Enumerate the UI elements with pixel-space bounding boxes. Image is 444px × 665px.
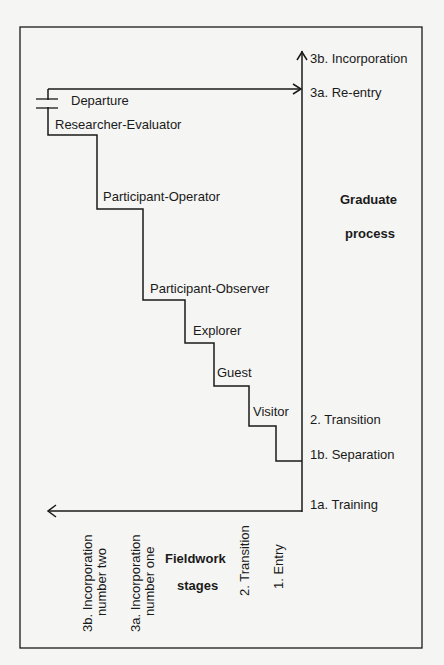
graduate-title-line1: Graduate [340, 193, 397, 206]
label-guest: Guest [217, 366, 252, 379]
label-fieldwork-transition: 2. Transition [238, 525, 252, 596]
label-incorporation: 3b. Incorporation [310, 52, 408, 65]
label-incorporation-two: 3b. Incorporation number two [81, 534, 108, 632]
fieldwork-title-line2: stages [177, 579, 218, 592]
label-transition: 2. Transition [310, 413, 381, 426]
label-reentry: 3a. Re-entry [310, 86, 382, 99]
label-participant-observer: Participant-Observer [150, 282, 269, 295]
label-entry: 1. Entry [272, 544, 286, 589]
label-incorporation-one: 3a. Incorporation number one [129, 534, 156, 632]
graduate-title-line2: process [345, 227, 395, 240]
label-departure: Departure [71, 94, 129, 107]
label-visitor: Visitor [253, 405, 289, 418]
label-separation: 1b. Separation [310, 448, 395, 461]
label-explorer: Explorer [193, 324, 241, 337]
fieldwork-title-line1: Fieldwork [165, 552, 226, 565]
label-participant-operator: Participant-Operator [103, 190, 220, 203]
label-researcher-evaluator: Researcher-Evaluator [55, 118, 181, 131]
label-training: 1a. Training [310, 498, 378, 511]
